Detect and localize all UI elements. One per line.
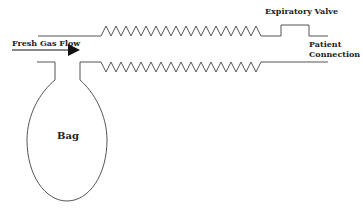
breathing-circuit-diagram — [0, 0, 363, 213]
fresh-gas-flow-label: Fresh Gas Flow — [12, 39, 80, 47]
patient-connection-label-line1: Patient — [309, 40, 341, 48]
lower-tube-wall — [80, 62, 328, 80]
upper-tube-wall — [38, 25, 328, 36]
patient-connection-label-line2: Connection — [309, 50, 360, 58]
expiratory-valve-label: Expiratory Valve — [265, 7, 338, 15]
bag-neck-left — [37, 62, 55, 80]
bag-label: Bag — [57, 131, 79, 141]
